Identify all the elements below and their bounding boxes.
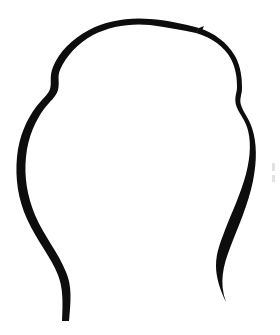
right-edge-speck-upper <box>272 163 275 171</box>
line-drawing-svg <box>0 0 280 335</box>
canvas-background <box>0 0 280 335</box>
drawing-canvas: Hair outline line drawing A single black… <box>0 0 280 335</box>
right-edge-speck-lower <box>272 175 275 182</box>
